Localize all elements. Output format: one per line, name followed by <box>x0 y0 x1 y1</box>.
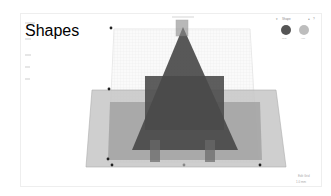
solid-label: Solid <box>282 37 286 39</box>
hole-swatch[interactable] <box>299 25 309 35</box>
hole-label: Hole <box>301 37 305 39</box>
lightbulb-icon[interactable]: ● <box>308 17 310 21</box>
resize-handle <box>111 164 114 167</box>
shape-panel: ▾ Shape ● ? Solid Hole <box>272 14 318 44</box>
edit-grid-label[interactable]: Edit Grid <box>298 174 310 178</box>
small-top-box <box>176 20 188 36</box>
resize-handle <box>259 164 262 167</box>
chevron-down-icon[interactable]: ▾ <box>276 17 278 21</box>
resize-handle <box>107 158 110 161</box>
solid-swatch[interactable] <box>281 25 291 35</box>
shape-panel-title: Shape <box>282 17 291 21</box>
snap-grid-label[interactable]: 1.0 mm <box>296 180 306 184</box>
resize-handle <box>183 164 186 167</box>
help-icon[interactable]: ? <box>313 17 315 21</box>
resize-handle <box>108 88 111 91</box>
resize-handle <box>110 27 113 30</box>
